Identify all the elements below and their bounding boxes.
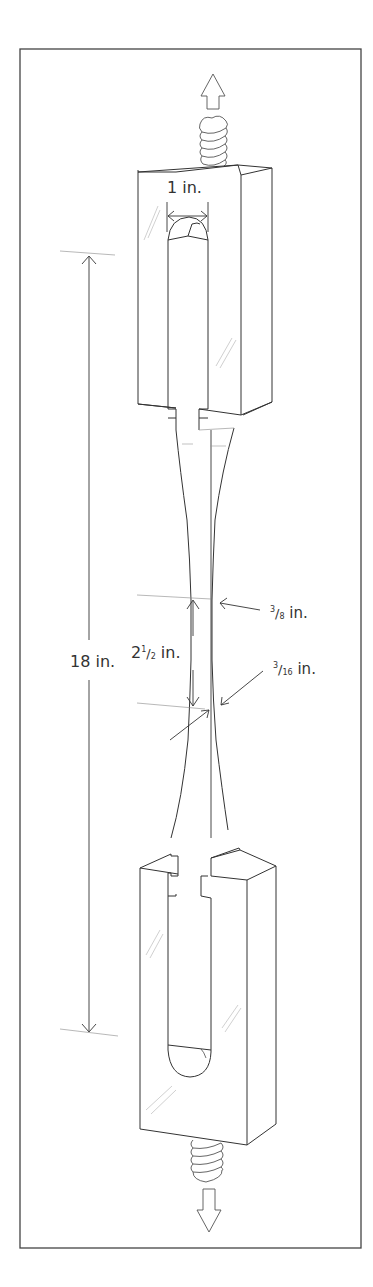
upper-grip-block (138, 165, 272, 430)
pull-down-arrow-icon (197, 1189, 221, 1232)
pull-up-arrow-icon (201, 74, 225, 109)
grip-width-label: 1 in. (167, 180, 202, 196)
gauge-width-arrow (220, 598, 260, 610)
gauge-length-unit: in. (161, 643, 181, 662)
thickness-label: 3/16 in. (273, 662, 316, 677)
highlight-marks-lower (146, 930, 241, 1114)
gauge-length-whole: 2 (131, 643, 141, 662)
gauge-width-unit: in. (289, 604, 307, 622)
gauge-length-den: 2 (151, 652, 156, 661)
overall-length-label: 18 in. (70, 652, 115, 672)
specimen-body (171, 428, 234, 838)
gauge-length-label: 21/2 in. (131, 645, 181, 661)
tensile-specimen-diagram: 1 in. 18 in. 21/2 in. 3/8 in. 3/16 in. (0, 0, 373, 1287)
thickness-arrows (170, 671, 263, 740)
lower-grip-block (140, 848, 276, 1145)
thickness-den: 16 (282, 668, 292, 677)
thickness-unit: in. (297, 660, 315, 678)
overall-length-dimension (60, 251, 118, 1036)
top-threaded-rod (199, 116, 227, 166)
gauge-width-label: 3/8 in. (270, 606, 308, 621)
gauge-width-den: 8 (279, 612, 284, 621)
bottom-threaded-rod (191, 1140, 223, 1182)
